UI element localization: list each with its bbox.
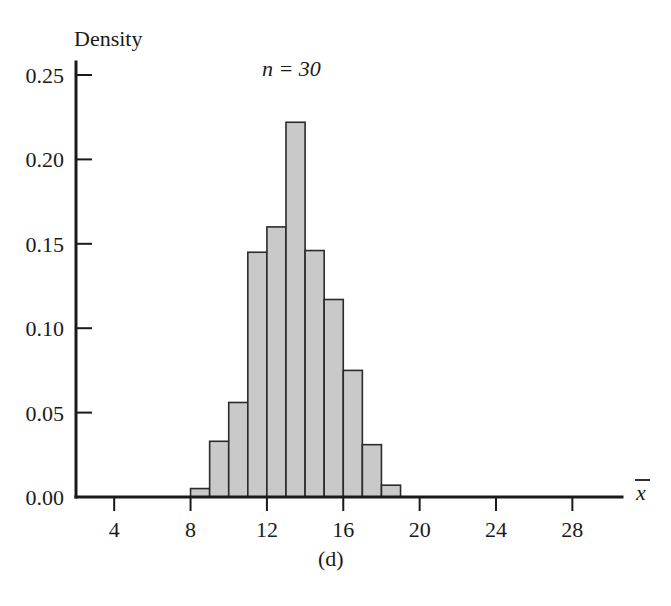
x-axis-title: x <box>635 480 650 505</box>
x-axis-ticks <box>114 498 572 511</box>
x-axis-tick-label: 12 <box>256 517 278 542</box>
x-axis-tick-label: 16 <box>332 517 354 542</box>
x-axis-tick-label: 28 <box>561 517 583 542</box>
y-axis-ticks <box>77 75 92 413</box>
figure-caption: (d) <box>318 546 344 571</box>
histogram-bar <box>286 122 305 497</box>
histogram-figure: 0.000.050.100.150.200.25 481216202428 De… <box>0 0 671 606</box>
bar-series <box>191 122 401 497</box>
x-axis-tick-label: 4 <box>109 517 120 542</box>
x-axis-tick-label: 8 <box>185 517 196 542</box>
x-axis-tick-label: 24 <box>485 517 507 542</box>
x-axis-tick-labels: 481216202428 <box>109 517 584 542</box>
y-axis-tick-label: 0.20 <box>26 147 65 172</box>
histogram-bar <box>267 227 286 497</box>
y-axis-tick-label: 0.25 <box>26 63 65 88</box>
histogram-bar <box>324 300 343 497</box>
histogram-bar <box>343 370 362 497</box>
histogram-bar <box>210 441 229 497</box>
y-axis-tick-label: 0.15 <box>26 232 65 257</box>
histogram-bar <box>305 251 324 497</box>
y-axis-tick-labels: 0.000.050.100.150.200.25 <box>26 63 65 510</box>
y-axis-tick-label: 0.05 <box>26 401 65 426</box>
y-axis-tick-label: 0.00 <box>26 485 65 510</box>
sample-size-annotation: n = 30 <box>262 56 321 81</box>
x-axis-title-glyph: x <box>635 480 646 505</box>
histogram-bar <box>381 485 400 497</box>
histogram-bar <box>229 402 248 497</box>
histogram-bar <box>362 445 381 497</box>
x-axis-tick-label: 20 <box>409 517 431 542</box>
histogram-svg: 0.000.050.100.150.200.25 481216202428 De… <box>0 0 671 606</box>
y-axis-tick-label: 0.10 <box>26 316 65 341</box>
histogram-bar <box>248 252 267 497</box>
y-axis-title: Density <box>74 26 142 51</box>
